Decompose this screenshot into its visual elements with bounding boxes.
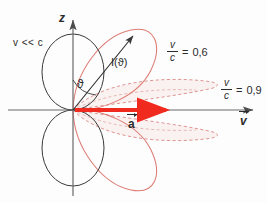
legend-beta-06: v c = 0,6 bbox=[167, 40, 208, 63]
acceleration-label: a bbox=[128, 118, 135, 130]
fraction-numerator: v bbox=[224, 78, 229, 89]
equals-sign: = bbox=[182, 46, 188, 58]
equals-sign: = bbox=[236, 84, 242, 96]
acceleration-symbol: a bbox=[128, 118, 135, 130]
fraction-numerator: v bbox=[170, 40, 175, 51]
radiation-pattern-figure: z v << c I(ϑ) ϑ a v v c = 0,6 v c = 0,9 bbox=[0, 0, 267, 203]
fraction-denominator: c bbox=[170, 52, 175, 63]
z-axis-label: z bbox=[59, 12, 65, 24]
nonrelativistic-label: v << c bbox=[13, 38, 43, 48]
fraction-v-over-c-06: v c bbox=[167, 40, 178, 63]
fraction-denominator: c bbox=[224, 90, 229, 101]
dashed-lobe-lower bbox=[73, 110, 217, 141]
legend-beta-09: v c = 0,9 bbox=[221, 78, 262, 101]
velocity-symbol: v bbox=[240, 115, 247, 127]
fraction-v-over-c-09: v c bbox=[221, 78, 232, 101]
intensity-label: I(ϑ) bbox=[111, 57, 127, 68]
beta-value: 0,9 bbox=[246, 84, 261, 96]
velocity-label: v bbox=[240, 115, 247, 127]
figure-canvas bbox=[0, 0, 267, 203]
beta-value: 0,6 bbox=[192, 46, 207, 58]
angle-label: ϑ bbox=[77, 78, 84, 90]
